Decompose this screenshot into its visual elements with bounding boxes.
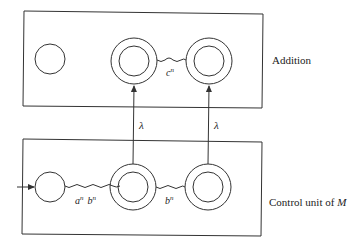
addition-box	[23, 11, 263, 108]
wavy-edge-bottom-2	[156, 186, 185, 189]
edge-label-bottom-2: bn	[165, 194, 174, 206]
addition-label: Addition	[272, 54, 312, 66]
state-circle-top-left	[35, 44, 65, 74]
edge-label-bottom-1: anbn	[75, 194, 97, 206]
final-state-bottom-2	[185, 164, 231, 210]
start-state-circle	[35, 172, 65, 202]
lambda-label-1: λ	[138, 119, 144, 131]
lambda-arrow-1	[133, 86, 134, 164]
lambda-label-2: λ	[213, 119, 219, 131]
lambda-arrow-2	[208, 86, 209, 164]
control-unit-label: Control unit of M	[269, 196, 347, 208]
edge-label-top: cn	[166, 66, 174, 78]
wavy-edge-top	[157, 58, 186, 62]
wavy-edge-bottom-1	[65, 185, 120, 188]
final-state-top-1	[111, 38, 157, 84]
control-unit-box	[17, 139, 262, 236]
final-state-top-2	[186, 38, 232, 84]
diagram-canvas: λ λ cn anbn bn Addition Control unit of …	[0, 0, 356, 248]
